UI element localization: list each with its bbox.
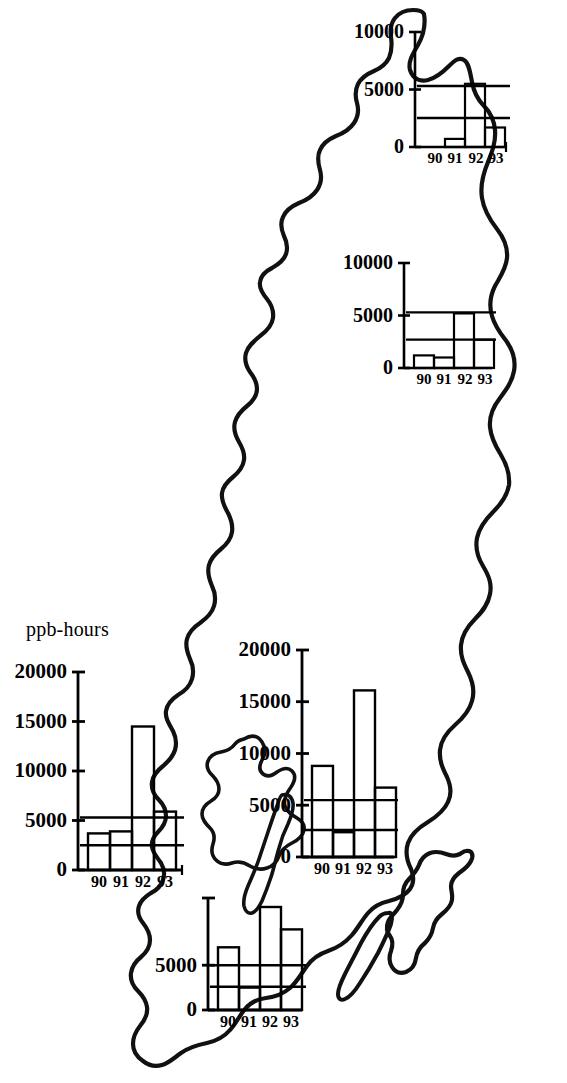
y-tick-label-5000: 5000	[155, 953, 197, 977]
y-tick-label-0: 0	[187, 997, 198, 1021]
chart-north: 10000 5000 0 90 91 92 93	[333, 14, 523, 174]
x-tick-label-92: 92	[262, 1013, 278, 1030]
bar-91	[333, 832, 354, 857]
x-tick-label-91: 91	[113, 873, 129, 890]
x-tick-label-90: 90	[428, 150, 443, 166]
bar-93	[485, 128, 505, 148]
chart-west-plot: 20000 15000 10000 5000 0 90 91 92 93	[15, 659, 185, 890]
y-tick-label-5000: 5000	[353, 304, 393, 326]
y-tick-label-5000: 5000	[249, 793, 291, 817]
chart-east-plot: 20000 15000 10000 5000 0 90 91 92 93	[239, 637, 399, 877]
x-tick-label-92: 92	[356, 860, 372, 877]
y-tick-label-15000: 15000	[15, 709, 68, 733]
x-tick-label-90: 90	[314, 860, 330, 877]
chart-north-central-plot: 10000 5000 0 90 91 92 93	[343, 251, 496, 388]
bar-91	[110, 831, 132, 870]
bar-90	[88, 833, 110, 870]
y-tick-label-5000: 5000	[364, 78, 404, 100]
y-tick-label-10000: 10000	[354, 20, 404, 42]
bar-92	[260, 907, 281, 1010]
bar-90	[312, 766, 333, 857]
y-tick-label-0: 0	[57, 857, 68, 881]
x-tick-label-91: 91	[335, 860, 351, 877]
y-tick-label-0: 0	[394, 135, 404, 157]
bar-93	[281, 929, 302, 1010]
bar-93	[474, 340, 494, 368]
x-tick-label-91: 91	[437, 371, 452, 387]
chart-south-plot: 5000 0 90 91 92 93	[155, 898, 306, 1030]
bar-91	[239, 988, 260, 1010]
y-tick-label-0: 0	[281, 844, 292, 868]
bar-92	[465, 84, 485, 147]
chart-north-central: 10000 5000 0 90 91 92 93	[318, 245, 513, 395]
x-tick-label-90: 90	[91, 873, 107, 890]
bar-92	[354, 690, 375, 857]
y-tick-label-10000: 10000	[239, 741, 292, 765]
x-tick-label-93: 93	[489, 150, 504, 166]
x-tick-label-92: 92	[458, 371, 473, 387]
x-tick-label-92: 92	[469, 150, 484, 166]
x-tick-label-93: 93	[377, 860, 393, 877]
chart-north-plot: 10000 5000 0 90 91 92 93	[354, 20, 510, 167]
x-tick-label-90: 90	[220, 1013, 236, 1030]
x-tick-label-91: 91	[448, 150, 463, 166]
bar-91	[434, 358, 454, 369]
x-tick-label-93: 93	[283, 1013, 299, 1030]
y-tick-label-20000: 20000	[15, 659, 68, 683]
bar-90	[218, 947, 239, 1010]
chart-south: 5000 0 90 91 92 93	[140, 885, 335, 1050]
x-tick-label-93: 93	[478, 371, 493, 387]
x-tick-label-90: 90	[417, 371, 432, 387]
bar-93	[154, 812, 176, 870]
figure-canvas: ppb-hours	[0, 0, 567, 1083]
charts-overlay: ppb-hours	[0, 0, 567, 1083]
bar-90	[414, 355, 434, 368]
bar-92	[132, 727, 154, 871]
units-label: ppb-hours	[26, 618, 109, 641]
bar-93	[375, 788, 396, 857]
y-tick-label-5000: 5000	[25, 808, 67, 832]
y-tick-label-15000: 15000	[239, 689, 292, 713]
chart-east: 20000 15000 10000 5000 0 90 91 92 93	[222, 635, 422, 885]
chart-west: 20000 15000 10000 5000 0 90 91 92 93	[12, 648, 222, 898]
y-tick-label-0: 0	[383, 356, 393, 378]
y-tick-label-10000: 10000	[15, 758, 68, 782]
x-tick-label-91: 91	[241, 1013, 257, 1030]
y-tick-label-20000: 20000	[239, 637, 292, 661]
y-tick-label-10000: 10000	[343, 251, 393, 273]
